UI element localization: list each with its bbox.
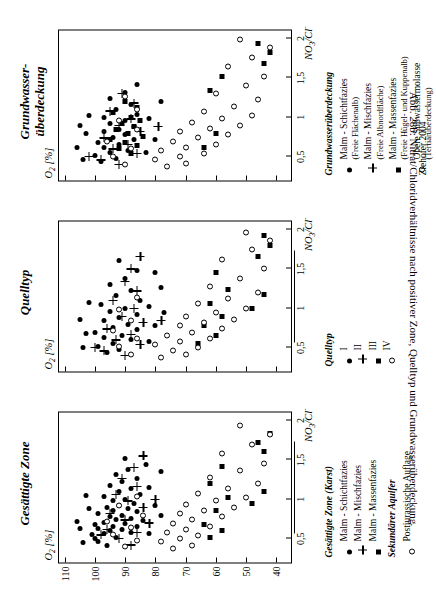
y-tick [125, 366, 126, 371]
data-point [164, 332, 170, 338]
data-point [151, 494, 160, 503]
data-point [189, 119, 195, 125]
data-point [219, 313, 224, 318]
data-point [121, 515, 130, 524]
legend-row: Malm - Schichtfazies(Freie Flächenalb) [339, 5, 360, 175]
data-point [147, 304, 152, 309]
y-tick [65, 366, 66, 371]
y-tick [65, 175, 66, 180]
data-point [122, 93, 128, 99]
data-point [157, 315, 166, 324]
data-point [129, 114, 134, 119]
data-point [183, 351, 189, 357]
data-point [96, 511, 101, 516]
data-point [177, 510, 183, 516]
data-point [261, 233, 266, 238]
x-tick-label: 2 [295, 35, 306, 40]
data-point [164, 163, 170, 169]
data-point [237, 422, 243, 428]
data-point [147, 116, 152, 121]
legend-label: I [339, 347, 349, 350]
data-point [133, 149, 142, 158]
x-tick [286, 37, 291, 38]
data-point [207, 523, 213, 529]
data-point [130, 303, 139, 312]
data-point [237, 36, 243, 42]
data-point [225, 295, 231, 301]
data-point [106, 509, 115, 518]
legend-symbol [373, 549, 384, 554]
data-point [207, 125, 213, 131]
plot-area: O2 [%]NO3/Cl-0,511,52 [58, 220, 292, 372]
data-point [164, 529, 170, 535]
legend-divider [294, 441, 295, 533]
y-tick-label: 110 [60, 566, 71, 584]
data-point [177, 128, 183, 134]
data-point [116, 117, 122, 123]
data-point [207, 283, 213, 289]
data-point [97, 530, 106, 539]
data-point [170, 545, 176, 551]
data-point [170, 138, 176, 144]
data-point [213, 141, 219, 147]
data-point [134, 493, 140, 499]
y-tick-label: 80 [150, 566, 161, 584]
data-point [201, 507, 207, 513]
legend-marker-plus [368, 163, 377, 172]
data-point [207, 474, 213, 480]
x-tick [286, 419, 291, 420]
data-point [225, 485, 231, 491]
data-point [75, 518, 80, 523]
data-point [81, 345, 86, 350]
legend-sublabel: (Freie Flächenalb) [350, 5, 360, 159]
data-point [213, 309, 219, 315]
data-point [135, 143, 140, 148]
x-axis-label: NO3/Cl- [301, 408, 317, 442]
data-point [102, 144, 107, 149]
x-tick [286, 346, 291, 347]
panel-title: Gesättigte Zone [18, 403, 33, 563]
data-point [207, 534, 212, 539]
data-point [195, 490, 201, 496]
data-point [123, 305, 128, 310]
data-point [111, 110, 116, 115]
legend-row: Malm - Massenfazies [368, 387, 379, 557]
legend-label: II [353, 344, 363, 350]
data-point [231, 504, 237, 510]
data-point [134, 106, 140, 112]
data-point [183, 160, 189, 166]
figure-caption-container: Abb. 28b: Nitrat/Chloridverhältnisse nac… [404, 0, 424, 615]
y-tick [65, 557, 66, 562]
data-point [100, 346, 109, 355]
legend-marker-plus [358, 545, 367, 554]
data-point [78, 316, 83, 321]
x-tick-label: 1 [295, 114, 306, 119]
data-point [255, 289, 261, 295]
data-point [255, 480, 261, 486]
x-tick-label: 2 [295, 226, 306, 231]
data-point [243, 494, 249, 500]
y-tick [186, 175, 187, 180]
data-point [102, 494, 107, 499]
data-point [97, 155, 106, 164]
data-point [159, 285, 164, 290]
data-point [120, 526, 125, 531]
data-point [219, 325, 225, 331]
data-point [130, 463, 139, 472]
data-point [114, 127, 119, 132]
data-point [124, 496, 133, 505]
data-point [145, 518, 154, 527]
legend-title: Gesättigte Zone (Karst) [324, 387, 335, 557]
data-point [255, 40, 260, 45]
legend-marker-dot [347, 358, 352, 363]
y-tick [246, 175, 247, 180]
data-point [91, 343, 100, 352]
legend-symbol [387, 357, 398, 363]
data-point [138, 118, 143, 123]
data-point [147, 339, 152, 344]
data-point [261, 265, 267, 271]
data-point [141, 133, 146, 138]
y-tick [155, 175, 156, 180]
data-point [249, 500, 254, 505]
data-point [249, 305, 254, 310]
